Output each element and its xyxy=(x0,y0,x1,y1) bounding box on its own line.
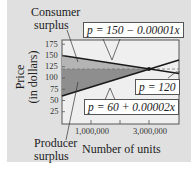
price-equation-label: p = 120 xyxy=(135,79,180,95)
y-tick-50: 50 xyxy=(50,96,59,105)
supply-equation-label: p = 60 + 0.00002x xyxy=(84,99,179,115)
y-tick-100: 100 xyxy=(45,73,58,82)
demand-equation-label: p = 150 − 0.00001x xyxy=(83,22,184,38)
x-tick-3000000: 3,000,000 xyxy=(133,127,167,136)
y-tick-25: 25 xyxy=(50,107,59,116)
producer-surplus-label-line2: surplus xyxy=(34,150,69,163)
y-tick-125: 125 xyxy=(45,62,58,71)
y-tick-75: 75 xyxy=(50,85,59,94)
equilibrium-point xyxy=(147,67,151,71)
y-tick-150: 150 xyxy=(45,51,58,60)
y-axis-label-line2: (in dollars) xyxy=(27,41,40,113)
supply-equation-text: p = 60 + 0.00002x xyxy=(88,101,175,113)
x-axis-label: Number of units xyxy=(82,143,161,156)
consumer-surplus-label-line2: surplus xyxy=(34,19,69,32)
price-equation-text: p = 120 xyxy=(139,81,176,93)
x-tick-1000000: 1,000,000 xyxy=(75,127,109,136)
y-tick-175: 175 xyxy=(45,40,58,49)
demand-equation-text: p = 150 − 0.00001x xyxy=(87,24,180,36)
